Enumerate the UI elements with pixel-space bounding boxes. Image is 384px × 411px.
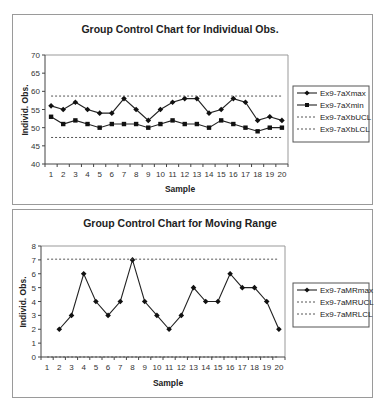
legend-entry-label: Ex9-7aXmin — [320, 101, 364, 110]
legend-entry-label: Ex9-7aXmax — [320, 89, 366, 98]
x-tick-label: 4 — [85, 170, 90, 179]
legend-entry-label: Ex9-7aXbLCL — [320, 125, 370, 134]
data-point-square — [243, 125, 247, 129]
y-tick-label: 50 — [31, 124, 40, 133]
data-point-square — [73, 118, 77, 122]
x-tick-label: 13 — [192, 170, 201, 179]
x-tick-label: 9 — [146, 170, 151, 179]
legend-entry-label: Ex9-7aXbUCL — [320, 113, 372, 122]
data-point-square — [97, 125, 101, 129]
data-point-square — [158, 122, 162, 126]
data-point-diamond — [170, 99, 176, 105]
x-tick-label: 10 — [156, 170, 165, 179]
y-tick-label: 65 — [31, 69, 40, 78]
data-point-square — [231, 122, 235, 126]
data-point-diamond — [279, 118, 285, 124]
y-tick-label: 40 — [31, 160, 40, 169]
data-point-square — [268, 125, 272, 129]
data-point-square — [110, 122, 114, 126]
data-point-diamond — [48, 103, 54, 109]
data-point-square — [195, 122, 199, 126]
x-tick-label: 3 — [73, 170, 78, 179]
x-axis-label: Sample — [165, 184, 196, 194]
individual-obs-chart: Group Control Chart for Individual Obs. … — [0, 0, 384, 411]
data-point-diamond — [267, 114, 273, 120]
x-tick-label: 11 — [168, 170, 177, 179]
y-tick-label: 55 — [31, 106, 40, 115]
data-point-diamond — [60, 107, 66, 113]
data-point-diamond — [85, 107, 91, 113]
x-tick-label: 15 — [217, 170, 226, 179]
data-point-square — [134, 122, 138, 126]
data-point-diamond — [182, 96, 188, 102]
x-tick-label: 16 — [229, 170, 238, 179]
y-tick-label: 60 — [31, 87, 40, 96]
chart-title: Group Control Chart for Individual Obs. — [81, 23, 278, 35]
legend-marker-square — [305, 103, 309, 107]
x-tick-label: 19 — [265, 170, 274, 179]
y-tick-label: 45 — [31, 142, 40, 151]
data-point-square — [255, 129, 259, 133]
data-point-square — [170, 118, 174, 122]
data-point-square — [61, 122, 65, 126]
data-point-square — [85, 122, 89, 126]
x-tick-label: 17 — [241, 170, 250, 179]
data-point-square — [280, 125, 284, 129]
x-tick-label: 18 — [253, 170, 262, 179]
x-tick-label: 12 — [180, 170, 189, 179]
data-point-diamond — [97, 110, 103, 116]
data-point-square — [219, 118, 223, 122]
data-point-diamond — [73, 99, 79, 105]
data-point-square — [207, 125, 211, 129]
y-axis-label: Individ. Obs. — [20, 84, 30, 135]
data-point-square — [183, 122, 187, 126]
data-point-square — [122, 122, 126, 126]
x-tick-label: 1 — [49, 170, 54, 179]
y-tick-label: 70 — [31, 51, 40, 60]
x-tick-label: 8 — [134, 170, 139, 179]
x-tick-label: 5 — [97, 170, 102, 179]
x-tick-label: 14 — [205, 170, 214, 179]
x-tick-label: 6 — [110, 170, 115, 179]
x-tick-label: 2 — [61, 170, 66, 179]
x-tick-label: 20 — [277, 170, 286, 179]
data-point-square — [146, 125, 150, 129]
data-point-square — [49, 115, 53, 119]
x-tick-label: 7 — [122, 170, 127, 179]
